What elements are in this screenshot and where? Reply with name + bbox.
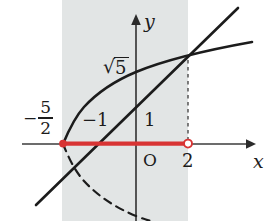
fraction: 5 2 bbox=[38, 99, 53, 137]
label-one: 1 bbox=[144, 111, 155, 129]
sqrt-five-label: √ 5 bbox=[103, 57, 129, 78]
origin-label: O bbox=[143, 152, 157, 169]
interval-left-endpoint-closed bbox=[59, 140, 67, 148]
x-axis-arrow-icon bbox=[246, 139, 256, 149]
label-neg-five-halves: − 5 2 bbox=[23, 99, 53, 137]
fraction-numerator: 5 bbox=[38, 99, 53, 117]
minus-sign: − bbox=[23, 108, 37, 129]
math-figure: x y O √ 5 −1 1 2 − 5 2 bbox=[0, 0, 272, 221]
label-two: 2 bbox=[182, 152, 193, 170]
radicand: 5 bbox=[114, 57, 128, 78]
y-axis-label: y bbox=[144, 12, 155, 31]
interval-right-endpoint-open bbox=[184, 140, 192, 148]
fraction-denominator: 2 bbox=[38, 119, 53, 137]
x-axis-label: x bbox=[253, 152, 264, 171]
label-neg-one: −1 bbox=[82, 111, 109, 129]
